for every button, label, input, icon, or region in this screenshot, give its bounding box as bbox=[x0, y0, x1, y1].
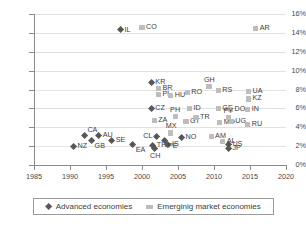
square-marker-icon bbox=[245, 107, 250, 112]
point-label: CA bbox=[87, 126, 97, 134]
point-label: PE bbox=[168, 142, 178, 150]
point-label: CH bbox=[150, 152, 160, 160]
diamond-marker-icon bbox=[148, 105, 155, 112]
point-label: CL bbox=[143, 132, 152, 140]
point-label: IN bbox=[252, 105, 259, 113]
diamond-marker-icon bbox=[70, 142, 77, 149]
x-tick-label: 1985 bbox=[17, 172, 51, 181]
square-marker-icon bbox=[139, 25, 144, 30]
x-tick bbox=[106, 166, 107, 170]
square-marker-icon bbox=[168, 93, 173, 98]
x-tick-label: 1995 bbox=[89, 172, 123, 181]
legend-label: Emerginig market economies bbox=[157, 202, 261, 211]
point-label: JP bbox=[232, 144, 240, 152]
square-marker-icon bbox=[209, 134, 214, 139]
point-label: DO bbox=[235, 105, 246, 113]
point-label: PH bbox=[170, 106, 180, 114]
x-tick bbox=[70, 166, 71, 170]
square-marker-icon bbox=[217, 120, 222, 125]
square-marker-icon bbox=[246, 89, 251, 94]
diamond-marker-icon bbox=[225, 145, 232, 152]
x-tick bbox=[286, 166, 287, 170]
x-tick bbox=[178, 166, 179, 170]
x-tick-label: 2015 bbox=[233, 172, 267, 181]
point-label: CO bbox=[146, 23, 157, 31]
point-label: NZ bbox=[78, 142, 88, 150]
x-tick bbox=[250, 166, 251, 170]
point-label: GB bbox=[95, 142, 105, 150]
x-tick bbox=[214, 166, 215, 170]
point-label: MX bbox=[166, 122, 177, 130]
square-marker-icon bbox=[193, 115, 198, 120]
square-marker-icon bbox=[187, 106, 192, 111]
point-label: SE bbox=[116, 136, 126, 144]
diamond-legend-marker-icon bbox=[45, 203, 53, 211]
point-label: RS bbox=[222, 86, 232, 94]
point-label: RO bbox=[191, 88, 202, 96]
point-label: IL bbox=[124, 26, 130, 34]
point-label: AR bbox=[260, 24, 270, 32]
square-marker-icon bbox=[168, 130, 173, 135]
square-marker-icon bbox=[216, 106, 221, 111]
square-marker-icon bbox=[245, 122, 250, 127]
chart-legend: Advanced economiesEmerginig market econo… bbox=[33, 198, 274, 215]
square-marker-icon bbox=[173, 114, 178, 119]
point-label: ID bbox=[194, 104, 201, 112]
x-tick-label: 2010 bbox=[197, 172, 231, 181]
point-label: CZ bbox=[155, 104, 165, 112]
square-marker-icon bbox=[220, 139, 225, 144]
point-label: GH bbox=[204, 76, 215, 84]
x-tick-label: 2005 bbox=[161, 172, 195, 181]
point-label: HU bbox=[175, 91, 185, 99]
diamond-marker-icon bbox=[148, 79, 155, 86]
plot-area: ILKRCZCAAUGBSEEANZCLNOTHISCHPEUSJPCOARBR… bbox=[34, 14, 286, 165]
square-marker-icon bbox=[253, 26, 258, 31]
x-tick bbox=[142, 166, 143, 170]
legend-item[interactable]: Advanced economies bbox=[46, 202, 132, 211]
scatter-chart: 0%2%4%6%8%10%12%14%16% 19851990199520002… bbox=[0, 0, 306, 226]
point-label: TR bbox=[200, 113, 210, 121]
point-label: NO bbox=[186, 133, 197, 141]
point-label: KZ bbox=[253, 94, 262, 102]
diamond-marker-icon bbox=[108, 137, 115, 144]
point-label: PY bbox=[223, 107, 233, 115]
x-tick-label: 2000 bbox=[125, 172, 159, 181]
diamond-marker-icon bbox=[95, 132, 102, 139]
square-marker-icon bbox=[246, 96, 251, 101]
diamond-marker-icon bbox=[117, 26, 124, 33]
diamond-marker-icon bbox=[178, 134, 185, 141]
square-legend-marker-icon bbox=[146, 205, 153, 209]
square-marker-icon bbox=[216, 88, 221, 93]
square-marker-icon bbox=[183, 119, 188, 124]
square-marker-icon bbox=[185, 90, 190, 95]
square-marker-icon bbox=[206, 84, 211, 89]
point-label: RU bbox=[252, 120, 262, 128]
point-label: EA bbox=[136, 146, 146, 154]
square-marker-icon bbox=[156, 86, 161, 91]
square-marker-icon bbox=[152, 118, 157, 123]
square-marker-icon bbox=[226, 115, 231, 120]
point-label: AL bbox=[227, 137, 236, 145]
square-marker-icon bbox=[156, 92, 161, 97]
x-tick-label: 1990 bbox=[53, 172, 87, 181]
x-tick bbox=[34, 166, 35, 170]
legend-item[interactable]: Emerginig market economies bbox=[146, 202, 261, 211]
legend-label: Advanced economies bbox=[56, 202, 133, 211]
x-tick-label: 2020 bbox=[269, 172, 303, 181]
